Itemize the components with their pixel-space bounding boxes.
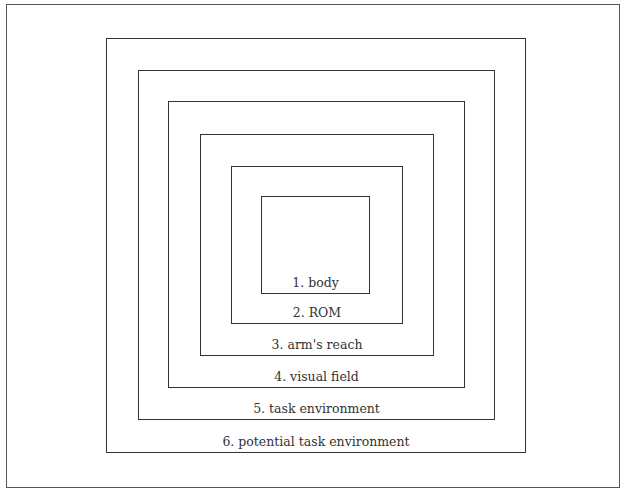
label-visual-field: 4. visual field bbox=[169, 369, 464, 385]
label-body: 1. body bbox=[262, 275, 369, 291]
label-rom: 2. ROM bbox=[232, 305, 402, 321]
label-arms-reach: 3. arm's reach bbox=[201, 337, 433, 353]
label-task-environment: 5. task environment bbox=[139, 401, 494, 417]
box-level-1: 1. body bbox=[261, 196, 370, 294]
label-potential-task-environment: 6. potential task environment bbox=[107, 434, 525, 450]
